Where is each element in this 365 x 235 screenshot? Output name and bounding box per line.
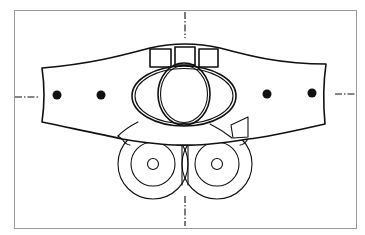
hole-left-outer — [53, 91, 62, 100]
hole-right-outer — [308, 89, 317, 98]
left-roller-hub — [148, 159, 159, 170]
left-roller-inner — [131, 142, 175, 186]
technical-drawing — [0, 0, 365, 235]
hole-left-inner — [97, 91, 106, 100]
hole-right-inner — [263, 90, 272, 99]
diagram-canvas — [0, 0, 365, 235]
right-roller-hub — [212, 159, 223, 170]
oval-outer — [132, 66, 236, 126]
right-roller-inner — [195, 142, 239, 186]
